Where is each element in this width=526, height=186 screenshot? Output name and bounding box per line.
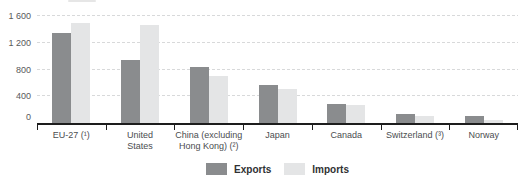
exports-bar [327,104,346,123]
y-tick-label: 800 [16,65,31,75]
y-tick-label: 1 600 [8,11,31,21]
exports-bar [396,114,415,123]
legend-item-imports: Imports [284,163,349,175]
imports-bar [484,120,503,123]
exports-bar [259,85,278,123]
exports-bar [190,67,209,123]
imports-bar [209,76,228,123]
x-axis-labels: EU-27 (¹)UnitedStatesChina (excludingHon… [37,130,518,152]
x-category-label: Switzerland (³) [381,130,450,152]
bar-group [243,16,312,123]
imports-bar [415,116,434,123]
legend-item-exports: Exports [206,163,271,175]
x-category-label: Japan [243,130,312,152]
y-tick-label: 1 200 [8,38,31,48]
bar-groups [37,16,518,123]
legend: Exports Imports [37,161,518,177]
exports-bar [52,33,71,123]
cropped-content-remnant [68,0,96,2]
bar-group [312,16,381,123]
x-category-label: Norway [449,130,518,152]
plot-area [37,16,518,125]
y-axis: 04008001 2001 600 [0,16,31,123]
bar-group [449,16,518,123]
y-tick-label: 0 [26,112,31,122]
imports-bar [71,23,90,123]
imports-bar [278,89,297,123]
y-tick-label: 400 [16,91,31,101]
imports-swatch [284,163,305,175]
exports-swatch [206,163,227,175]
exports-legend-label: Exports [234,164,271,175]
exports-bar [121,60,140,123]
x-category-label: UnitedStates [106,130,175,152]
imports-bar [140,25,159,123]
imports-legend-label: Imports [312,164,349,175]
trade-bar-chart: 04008001 2001 600 EU-27 (¹)UnitedStatesC… [0,0,526,186]
bar-group [37,16,106,123]
x-category-label: China (excludingHong Kong) (²) [174,130,243,152]
x-category-label: Canada [312,130,381,152]
x-category-label: EU-27 (¹) [37,130,106,152]
bar-group [381,16,450,123]
imports-bar [346,105,365,123]
bar-group [174,16,243,123]
exports-bar [465,116,484,123]
bar-group [106,16,175,123]
